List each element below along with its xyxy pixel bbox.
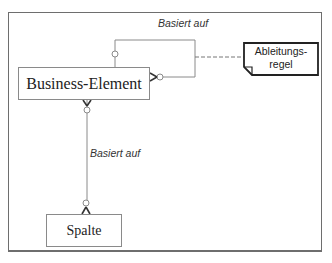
entity-label: Business-Element [26,75,142,93]
entity-business-element[interactable]: Business-Element [18,67,150,100]
crows-foot-icon [150,73,157,81]
self-relation-label: Basiert auf [158,17,208,29]
note-line-2: regel [269,58,292,71]
note-line-1: Ableitungs- [255,45,308,58]
diagram-canvas: Business-Element Spalte Basiert auf Basi… [0,0,332,263]
crows-foot-icon [82,207,90,214]
note-ableitungsregel[interactable]: Ableitungs- regel [246,42,316,74]
spalte-relation-label: Basiert auf [90,147,140,159]
spalte-relation-connector [83,100,90,206]
entity-label: Spalte [67,223,102,239]
entity-spalte[interactable]: Spalte [46,214,122,247]
